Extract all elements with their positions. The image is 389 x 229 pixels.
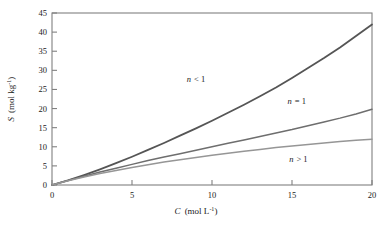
curve-label-variable: n bbox=[289, 154, 293, 164]
y-tick-label: 35 bbox=[39, 46, 48, 56]
y-tick-label: 5 bbox=[43, 161, 47, 171]
y-tick-label: 30 bbox=[39, 65, 48, 75]
y-axis-ticks: 051015202530354045 bbox=[39, 8, 58, 190]
x-tick-label: 20 bbox=[368, 190, 377, 200]
y-tick-label: 40 bbox=[39, 27, 48, 37]
x-axis-ticks: 05101520 bbox=[50, 180, 376, 200]
x-tick-label: 0 bbox=[50, 190, 54, 200]
plot-frame bbox=[52, 13, 372, 185]
curve-label-variable: n bbox=[288, 96, 292, 106]
curve-label-n-gt-1: n> 1 bbox=[289, 154, 307, 164]
curve-label-n-eq-1: n= 1 bbox=[288, 96, 306, 106]
y-axis-title-var: S bbox=[6, 116, 16, 121]
y-tick-label: 10 bbox=[39, 142, 48, 152]
curve-label-relation: = 1 bbox=[295, 96, 306, 106]
y-tick-label: 0 bbox=[43, 180, 47, 190]
y-tick-label: 20 bbox=[39, 104, 48, 114]
x-axis-title-units: (mol L bbox=[185, 206, 210, 216]
y-tick-label: 45 bbox=[39, 8, 48, 18]
x-tick-label: 10 bbox=[208, 190, 217, 200]
x-axis-title: C(mol L-1) bbox=[175, 206, 218, 216]
curve-n-1 bbox=[52, 139, 372, 185]
x-tick-label: 15 bbox=[288, 190, 297, 200]
curve-label-n-lt-1: n< 1 bbox=[187, 74, 205, 84]
chart-figure: 051015202530354045 05101520 n< 1n= 1n> 1… bbox=[0, 0, 389, 229]
x-axis-title-var: C bbox=[175, 206, 182, 216]
y-tick-label: 25 bbox=[39, 84, 48, 94]
y-axis-title-units: (mol kg bbox=[6, 84, 16, 113]
data-curves bbox=[52, 24, 372, 185]
chart-plot-svg: 051015202530354045 05101520 n< 1n= 1n> 1… bbox=[0, 0, 389, 229]
y-axis-title: S(mol kg-1) bbox=[6, 77, 16, 122]
y-axis-title-close: ) bbox=[6, 77, 16, 80]
x-axis-title-close: ) bbox=[214, 206, 217, 216]
curve-label-relation: > 1 bbox=[296, 154, 307, 164]
curve-label-relation: < 1 bbox=[194, 74, 205, 84]
curve-label-variable: n bbox=[187, 74, 191, 84]
axes-frame bbox=[52, 13, 372, 185]
y-tick-label: 15 bbox=[39, 123, 48, 133]
curve-n-1 bbox=[52, 24, 372, 185]
x-tick-label: 5 bbox=[130, 190, 134, 200]
